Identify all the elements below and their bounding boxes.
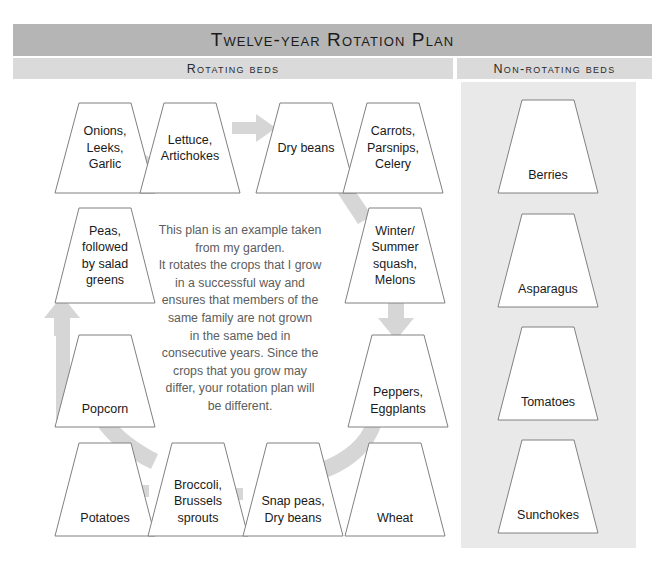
bed-peppers[interactable]: Peppers, Eggplants (348, 335, 448, 427)
bed-sunchokes[interactable]: Sunchokes (498, 440, 598, 533)
bed-wheat[interactable]: Wheat (345, 443, 445, 536)
note-line: It rotates the crops that I grow (150, 257, 330, 275)
note-line: in the same bed in (150, 328, 330, 346)
bed-lettuce[interactable]: Lettuce, Artichokes (140, 103, 240, 193)
note-line: consecutive years. Since the (150, 345, 330, 363)
note-line: be different. (150, 398, 330, 416)
bed-asparagus[interactable]: Asparagus (498, 214, 598, 307)
note-line: This plan is an example taken (150, 222, 330, 240)
bed-peas[interactable]: Peas, followed by salad greens (55, 208, 155, 303)
bed-drybeans[interactable]: Dry beans (256, 103, 356, 193)
note-line: crops that you grow may (150, 363, 330, 381)
bed-carrots[interactable]: Carrots, Parsnips, Celery (343, 103, 443, 193)
bed-tomatoes[interactable]: Tomatoes (498, 327, 598, 420)
note-line: same family are not grown (150, 310, 330, 328)
bed-popcorn[interactable]: Popcorn (55, 335, 155, 427)
bed-berries[interactable]: Berries (498, 100, 598, 193)
bed-potatoes[interactable]: Potatoes (55, 443, 155, 536)
bed-squash[interactable]: Winter/ Summer squash, Melons (345, 208, 445, 303)
bed-broccoli[interactable]: Broccoli, Brussels sprouts (148, 443, 248, 536)
rotation-plan-diagram: Twelve-year Rotation Plan Rotating beds … (0, 0, 665, 575)
arrow-squash-to-peppers (378, 300, 414, 340)
note-line: in a successful way and (150, 275, 330, 293)
explanatory-note: This plan is an example takenfrom my gar… (150, 222, 330, 416)
bed-snappeas[interactable]: Snap peas, Dry beans (243, 443, 343, 536)
note-line: ensures that members of the (150, 292, 330, 310)
note-line: differ, your rotation plan will (150, 380, 330, 398)
note-line: from my garden. (150, 240, 330, 258)
